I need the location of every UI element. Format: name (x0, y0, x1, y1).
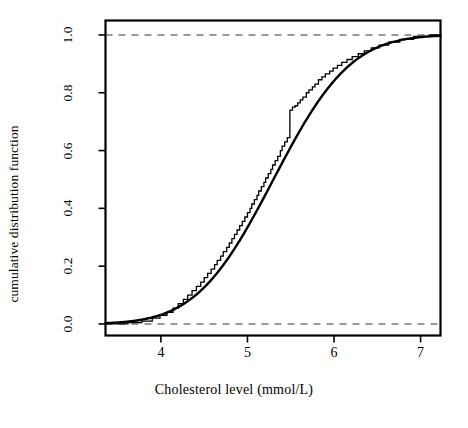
cdf-figure: cumulative distribution function Cholest… (0, 0, 468, 428)
x-tick-label: 5 (227, 345, 267, 361)
fitted-normal-curve (106, 36, 441, 323)
y-tick-label: 1.0 (59, 15, 77, 55)
x-tick-label: 4 (141, 345, 181, 361)
y-tick-label: 0.2 (59, 246, 77, 286)
y-tick-label: 0.4 (59, 188, 77, 228)
y-tick-label: 0.8 (59, 73, 77, 113)
y-axis-title: cumulative distribution function (0, 0, 28, 428)
x-axis-title: Cholesterol level (mmol/L) (0, 382, 468, 398)
x-tick-label: 6 (314, 345, 354, 361)
y-tick-label: 0.0 (59, 304, 77, 344)
x-tick-label: 7 (401, 345, 441, 361)
y-tick-label: 0.6 (59, 131, 77, 171)
